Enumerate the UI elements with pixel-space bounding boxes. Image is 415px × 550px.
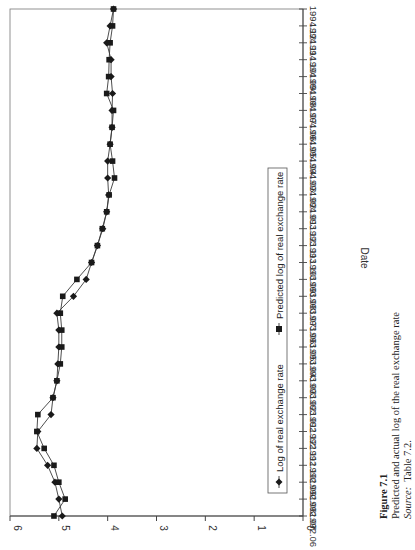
square-marker-icon — [104, 91, 110, 97]
square-marker-icon — [106, 192, 112, 198]
square-marker-icon — [106, 57, 112, 63]
diamond-marker-icon — [44, 462, 51, 469]
rotated-line-chart: 0123456 1992.061992.071992.081992.091992… — [0, 0, 415, 550]
square-marker-icon — [89, 260, 95, 266]
series-line — [37, 9, 114, 516]
square-marker-icon — [54, 378, 60, 384]
square-marker-icon — [104, 209, 110, 215]
legend-label-actual: Log of real exchange rate — [274, 364, 285, 472]
series-predicted — [34, 6, 117, 519]
square-marker-icon — [51, 463, 57, 469]
value-tick-label: 4 — [109, 525, 120, 531]
legend-item-actual: Log of real exchange rate — [274, 364, 285, 488]
square-marker-icon — [276, 326, 282, 332]
square-marker-icon — [106, 74, 112, 80]
square-marker-icon — [56, 479, 62, 485]
category-tick-label: 1994.12 — [308, 6, 319, 40]
diamond-marker-icon — [83, 276, 90, 283]
value-tick-label: 1 — [256, 525, 267, 531]
x-axis-title: Date — [359, 247, 370, 269]
square-marker-icon — [62, 496, 68, 502]
square-marker-icon — [59, 327, 65, 333]
series-actual — [33, 5, 117, 519]
square-marker-icon — [95, 243, 101, 249]
square-marker-icon — [35, 412, 41, 418]
value-tick-label: 3 — [158, 525, 169, 531]
square-marker-icon — [50, 395, 56, 401]
square-marker-icon — [60, 294, 66, 300]
square-marker-icon — [110, 23, 116, 29]
square-marker-icon — [109, 125, 115, 131]
legend: Log of real exchange rate Predicted log … — [268, 168, 287, 493]
square-marker-icon — [110, 158, 116, 164]
diamond-marker-icon — [104, 174, 111, 181]
figure-description: Predicted and actual log of the real exc… — [390, 219, 402, 519]
series-layer — [33, 5, 117, 519]
square-marker-icon — [57, 310, 63, 316]
diamond-marker-icon — [33, 445, 40, 452]
legend-item-predicted: Predicted log of real exchange rate — [274, 172, 285, 335]
figure-source: Source: Table 7.2. — [402, 219, 414, 519]
figure-label: Figure 7.1 — [378, 219, 390, 519]
legend-label-predicted: Predicted log of real exchange rate — [274, 172, 285, 319]
square-marker-icon — [34, 429, 40, 435]
value-tick-label: 5 — [60, 525, 71, 531]
source-text: Table 7.2. — [402, 440, 413, 482]
plot-frame — [10, 9, 303, 516]
square-marker-icon — [99, 226, 105, 232]
square-marker-icon — [59, 344, 65, 350]
square-marker-icon — [112, 175, 118, 181]
square-marker-icon — [41, 446, 47, 452]
figure-caption: Figure 7.1 Predicted and actual log of t… — [378, 219, 414, 519]
series-line — [37, 9, 115, 516]
diamond-marker-icon — [55, 496, 62, 503]
diamond-marker-icon — [109, 90, 116, 97]
square-marker-icon — [57, 361, 63, 367]
diamond-marker-icon — [59, 512, 66, 519]
category-axis-ticks: 1992.061992.071992.081992.091992.101992.… — [299, 6, 319, 547]
square-marker-icon — [51, 513, 57, 519]
square-marker-icon — [74, 277, 80, 283]
value-tick-label: 6 — [12, 525, 23, 531]
square-marker-icon — [107, 40, 113, 46]
value-tick-label: 2 — [207, 525, 218, 531]
square-marker-icon — [107, 141, 113, 147]
square-marker-icon — [111, 108, 117, 114]
source-label: Source: — [402, 487, 413, 519]
square-marker-icon — [111, 6, 117, 12]
